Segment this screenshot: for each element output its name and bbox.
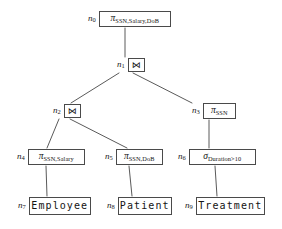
node-n7-label: n7 (18, 201, 26, 211)
node-n5[interactable]: n5 πSSN,DoB (105, 149, 163, 165)
node-n3-label: n3 (192, 106, 200, 116)
join-icon: ⋈ (132, 61, 141, 70)
node-n0-box[interactable]: πSSN,Salary,DoB (99, 11, 171, 27)
edge-n6-n9 (215, 166, 217, 196)
node-n0-operator: πSSN,Salary,DoB (111, 14, 159, 24)
node-n8-box[interactable]: Patient (118, 197, 172, 215)
query-tree-diagram: n0 πSSN,Salary,DoB n1 ⋈ n2 ⋈ n3 πSSN n4 … (0, 0, 282, 229)
relation-name: Employee (31, 201, 88, 211)
node-n4[interactable]: n4 πSSN,Salary (17, 149, 85, 165)
node-n6[interactable]: n6 σDuration>10 (178, 149, 256, 165)
node-n3-box[interactable]: πSSN (203, 103, 236, 119)
node-n1[interactable]: n1 ⋈ (117, 58, 145, 72)
node-n8[interactable]: n8 Patient (107, 197, 172, 215)
node-n5-label: n5 (105, 152, 113, 162)
node-n3-operator: πSSN (211, 106, 228, 116)
node-n7-box[interactable]: Employee (29, 197, 91, 215)
node-n9-box[interactable]: Treatment (196, 197, 265, 215)
edge-n1-n3 (133, 73, 192, 103)
node-n1-label: n1 (117, 60, 125, 70)
node-n0-label: n0 (88, 14, 96, 24)
node-n5-operator: πSSN,DoB (124, 152, 155, 162)
relation-name: Patient (120, 201, 170, 211)
node-n5-box[interactable]: πSSN,DoB (116, 149, 163, 165)
relation-name: Treatment (198, 201, 262, 211)
edge-n4-n7 (46, 166, 47, 196)
node-n0[interactable]: n0 πSSN,Salary,DoB (88, 11, 171, 27)
node-n4-box[interactable]: πSSN,Salary (28, 149, 85, 165)
node-n9[interactable]: n9 Treatment (185, 197, 265, 215)
node-n8-label: n8 (107, 201, 115, 211)
node-n4-operator: πSSN,Salary (39, 152, 74, 162)
edge-n5-n8 (129, 166, 132, 196)
node-n2-box[interactable]: ⋈ (64, 104, 81, 118)
node-n2-label: n2 (53, 106, 61, 116)
edge-layer (0, 0, 282, 229)
edge-n1-n2 (71, 73, 119, 103)
node-n6-operator: σDuration>10 (203, 152, 241, 162)
node-n6-box[interactable]: σDuration>10 (189, 149, 256, 165)
node-n2[interactable]: n2 ⋈ (53, 104, 81, 118)
node-n7[interactable]: n7 Employee (18, 197, 91, 215)
node-n6-label: n6 (178, 152, 186, 162)
edge-n2-n4 (47, 119, 59, 148)
node-n9-label: n9 (185, 201, 193, 211)
node-n1-box[interactable]: ⋈ (128, 58, 145, 72)
join-icon: ⋈ (68, 107, 77, 116)
node-n3[interactable]: n3 πSSN (192, 103, 236, 119)
node-n4-label: n4 (17, 152, 25, 162)
edge-n2-n5 (70, 119, 127, 148)
